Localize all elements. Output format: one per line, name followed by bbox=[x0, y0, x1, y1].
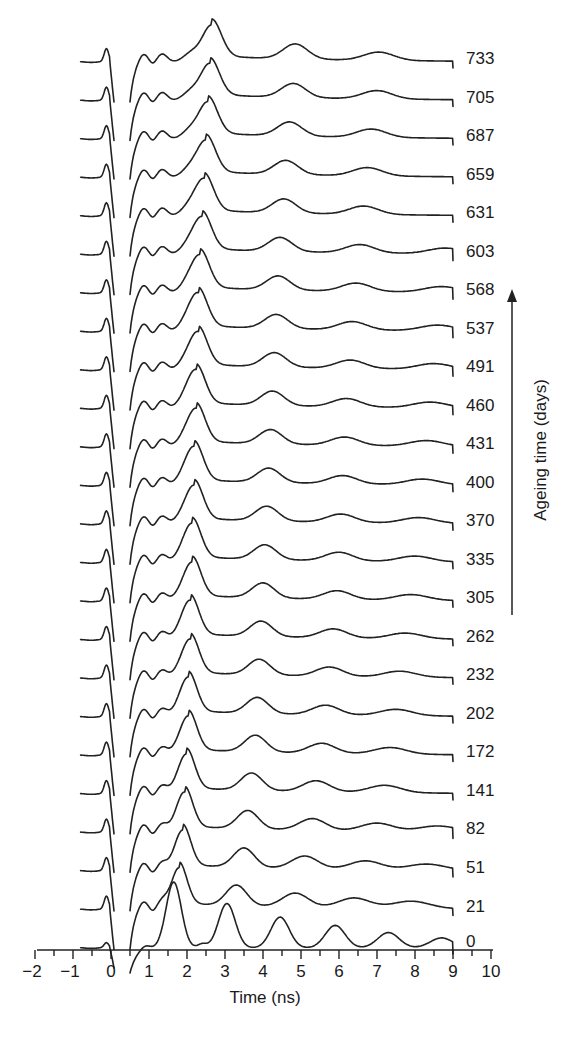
series-label: 82 bbox=[466, 819, 485, 838]
trace-response bbox=[130, 480, 453, 565]
series-label-group: 0215182141172202232262305335370400431460… bbox=[466, 49, 494, 951]
trace-response bbox=[130, 364, 453, 449]
series-label: 460 bbox=[466, 396, 494, 415]
x-tick-label: 2 bbox=[182, 962, 191, 981]
series-label: 733 bbox=[466, 49, 494, 68]
series-label: 491 bbox=[466, 357, 494, 376]
series-label: 305 bbox=[466, 588, 494, 607]
x-tick-label: 10 bbox=[482, 962, 501, 981]
x-tick-label: 7 bbox=[372, 962, 381, 981]
series-label: 232 bbox=[466, 665, 494, 684]
trace-response bbox=[130, 556, 453, 641]
y-axis-label: Ageing time (days) bbox=[531, 379, 550, 521]
series-label: 202 bbox=[466, 704, 494, 723]
x-tick-label: −2 bbox=[22, 962, 41, 981]
x-tick-label: 9 bbox=[448, 962, 457, 981]
x-tick-label: 0 bbox=[106, 962, 115, 981]
series-label: 172 bbox=[466, 742, 494, 761]
series-label: 705 bbox=[466, 88, 494, 107]
trace-response bbox=[130, 882, 453, 973]
trace-response bbox=[130, 19, 453, 102]
x-tick-label: 8 bbox=[410, 962, 419, 981]
trace-response bbox=[130, 134, 453, 217]
series-label: 21 bbox=[466, 897, 485, 916]
series-label: 431 bbox=[466, 434, 494, 453]
series-label: 51 bbox=[466, 858, 485, 877]
x-tick-label: 3 bbox=[220, 962, 229, 981]
trace-response bbox=[130, 326, 453, 410]
ageing-arrow bbox=[507, 289, 517, 615]
trace-reference-pulse bbox=[81, 896, 114, 949]
arrow-up-icon bbox=[507, 289, 517, 302]
series-label: 568 bbox=[466, 280, 494, 299]
trace-response bbox=[130, 787, 453, 873]
series-label: 0 bbox=[466, 932, 475, 951]
series-label: 603 bbox=[466, 242, 494, 261]
trace-group bbox=[81, 19, 453, 973]
trace-response bbox=[130, 517, 453, 602]
series-label: 141 bbox=[466, 781, 494, 800]
series-label: 631 bbox=[466, 203, 494, 222]
trace-response bbox=[130, 862, 453, 949]
series-label: 687 bbox=[466, 126, 494, 145]
series-label: 400 bbox=[466, 473, 494, 492]
trace-response bbox=[130, 288, 453, 372]
x-tick-group: −2−1012345678910 bbox=[22, 950, 500, 981]
x-tick-label: 4 bbox=[258, 962, 267, 981]
trace-response bbox=[130, 58, 453, 141]
trace-response bbox=[130, 595, 453, 680]
series-label: 537 bbox=[466, 319, 494, 338]
trace-response bbox=[130, 249, 453, 333]
series-label: 335 bbox=[466, 550, 494, 569]
waterfall-chart: 0215182141172202232262305335370400431460… bbox=[0, 0, 573, 1042]
x-axis-label: Time (ns) bbox=[229, 988, 300, 1007]
trace-response bbox=[130, 748, 453, 834]
series-label: 659 bbox=[466, 165, 494, 184]
x-axis: −2−1012345678910 Time (ns) bbox=[22, 950, 500, 1007]
trace-response bbox=[130, 634, 453, 719]
series-label: 370 bbox=[466, 511, 494, 530]
trace-response bbox=[130, 710, 453, 795]
x-tick-label: −1 bbox=[60, 962, 79, 981]
trace-response bbox=[130, 96, 453, 179]
x-tick-label: 5 bbox=[296, 962, 305, 981]
x-tick-label: 1 bbox=[144, 962, 153, 981]
series-label: 262 bbox=[466, 627, 494, 646]
x-tick-label: 6 bbox=[334, 962, 343, 981]
trace-response bbox=[130, 671, 453, 756]
